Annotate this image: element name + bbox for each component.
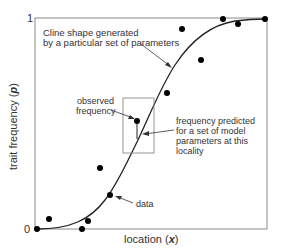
data-point — [164, 90, 170, 96]
data-point — [107, 192, 113, 198]
data-point — [34, 226, 40, 232]
observed-point — [134, 118, 140, 124]
data-point — [46, 216, 52, 222]
data-point — [79, 226, 85, 232]
data-point — [179, 26, 185, 32]
data-point — [198, 57, 204, 63]
arrowhead-icon — [128, 115, 135, 119]
annotation-predicted-line3: parameters at this — [176, 136, 249, 146]
annotation-predicted-line2: for a set of model — [176, 126, 246, 136]
data-point — [235, 21, 241, 27]
annotation-predicted-line1: frequency predicted — [176, 116, 255, 126]
annotation-observed-line2: frequency — [76, 106, 116, 116]
annotation-predicted-line4: locality — [176, 146, 204, 156]
y-axis-label: trait frequency (p) — [7, 83, 19, 170]
arrowhead-icon — [115, 196, 122, 200]
annotation-observed-line1: observed — [77, 96, 114, 106]
locality-box — [123, 98, 154, 153]
arrow-predicted — [145, 130, 174, 134]
y-tick-0: 0 — [24, 223, 30, 235]
arrowhead-icon — [142, 131, 149, 136]
data-point — [220, 16, 226, 22]
data-point — [262, 16, 268, 22]
data-point — [97, 165, 103, 171]
cline-diagram: 1 0 trait frequency (p) location (x) Cli… — [0, 0, 281, 250]
annotation-data: data — [136, 199, 154, 209]
data-point — [85, 218, 91, 224]
x-axis-label: location (x) — [124, 233, 178, 245]
annotation-cline-line2: by a particular set of parameters — [43, 37, 179, 48]
y-tick-1: 1 — [27, 12, 33, 24]
